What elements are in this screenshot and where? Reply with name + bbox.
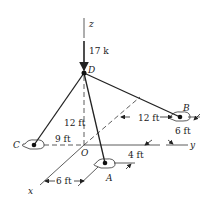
label-12ft-height: 12 ft (64, 118, 86, 128)
label-4ft: 4 ft (128, 150, 144, 160)
joint-C (32, 143, 37, 148)
tripod-diagram: z 17 k D 12 ft 9 ft C O 12 ft B 6 ft y 4… (0, 0, 212, 204)
label-6ft-x: 6 ft (56, 176, 72, 186)
joint-B (178, 115, 183, 120)
label-y: y (189, 140, 196, 150)
label-O: O (81, 148, 89, 158)
label-D: D (87, 65, 95, 75)
label-6ft-B: 6 ft (175, 126, 191, 136)
label-B: B (182, 103, 190, 113)
dim-A-x-ext (78, 167, 98, 186)
joint-A (103, 161, 108, 166)
dim-6ft-B-arrow2 (168, 140, 173, 144)
leg-DB (84, 73, 180, 117)
joint-D (82, 71, 87, 76)
label-z: z (88, 19, 94, 29)
label-C: C (13, 140, 20, 150)
dim-4ft-arrow2 (126, 164, 131, 169)
b-projection-dashed (84, 97, 140, 145)
dim-4ft-arrow1 (145, 140, 152, 145)
label-x: x (28, 186, 33, 196)
label-load: 17 k (89, 46, 109, 56)
label-12ft-B: 12 ft (138, 113, 160, 123)
label-A: A (105, 173, 113, 183)
label-9ft: 9 ft (55, 134, 71, 144)
